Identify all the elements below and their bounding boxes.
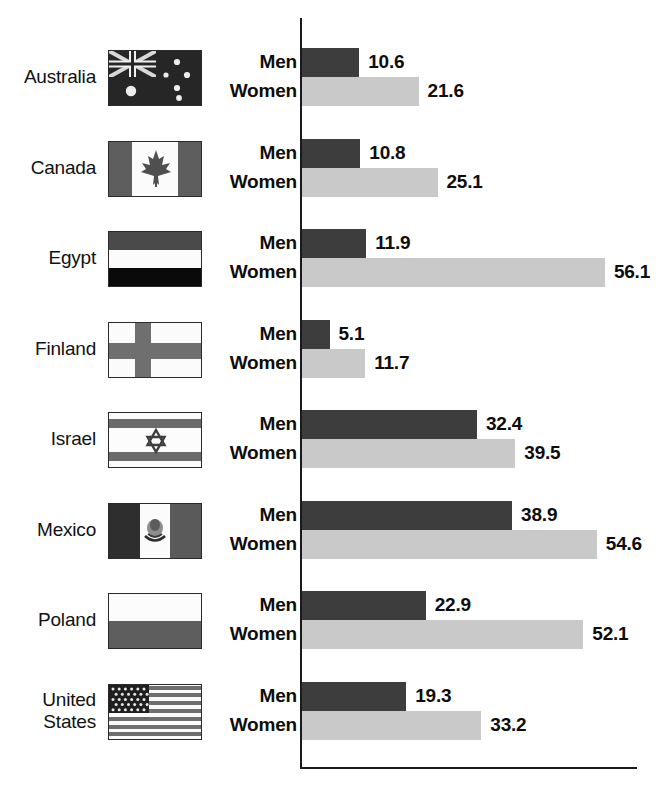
- series-row-women: Women52.1: [0, 620, 664, 649]
- bar-women: [302, 349, 365, 378]
- bar-women: [302, 168, 438, 197]
- series-row-women: Women56.1: [0, 258, 664, 287]
- bar-men: [302, 682, 406, 711]
- series-row-women: Women21.6: [0, 77, 664, 106]
- bar-value-women: 54.6: [606, 533, 642, 555]
- series-row-men: Men5.1: [0, 320, 664, 349]
- bar-women: [302, 530, 597, 559]
- bar-men: [302, 139, 360, 168]
- series-label-men: Men: [200, 594, 297, 616]
- series-label-men: Men: [200, 232, 297, 254]
- bar-men: [302, 229, 366, 258]
- series-label-men: Men: [200, 51, 297, 73]
- bar-women: [302, 711, 481, 740]
- series-label-women: Women: [200, 623, 297, 645]
- bar-women: [302, 258, 605, 287]
- series-row-men: Men11.9: [0, 229, 664, 258]
- country-group: Canada Men10.8Women25.1: [0, 129, 664, 217]
- series-row-women: Women54.6: [0, 530, 664, 559]
- bar-men: [302, 591, 426, 620]
- series-row-women: Women39.5: [0, 439, 664, 468]
- bar-men: [302, 320, 330, 349]
- series-row-women: Women33.2: [0, 711, 664, 740]
- series-label-women: Women: [200, 261, 297, 283]
- bar-value-men: 10.6: [368, 51, 404, 73]
- series-row-men: Men22.9: [0, 591, 664, 620]
- series-label-women: Women: [200, 533, 297, 555]
- series-label-men: Men: [200, 323, 297, 345]
- bar-women: [302, 439, 515, 468]
- country-group: Australia Men10.6Women21.6: [0, 38, 664, 126]
- bar-value-women: 52.1: [592, 623, 628, 645]
- bar-value-men: 38.9: [521, 504, 557, 526]
- series-row-women: Women11.7: [0, 349, 664, 378]
- series-row-men: Men10.6: [0, 48, 664, 77]
- country-group: Poland Men22.9Women52.1: [0, 581, 664, 669]
- country-group: UnitedStatesMen19.3Women33.2: [0, 672, 664, 760]
- country-group: Mexico Men38.9Women54.6: [0, 491, 664, 579]
- bar-men: [302, 48, 359, 77]
- bar-value-men: 19.3: [415, 685, 451, 707]
- bar-men: [302, 410, 477, 439]
- series-label-men: Men: [200, 413, 297, 435]
- series-label-men: Men: [200, 142, 297, 164]
- bar-value-women: 56.1: [614, 261, 650, 283]
- series-label-women: Women: [200, 80, 297, 102]
- bar-value-women: 21.6: [428, 80, 464, 102]
- bar-value-women: 25.1: [447, 171, 483, 193]
- series-row-men: Men38.9: [0, 501, 664, 530]
- bar-value-men: 10.8: [369, 142, 405, 164]
- series-label-men: Men: [200, 504, 297, 526]
- bar-value-men: 22.9: [435, 594, 471, 616]
- bar-value-men: 32.4: [486, 413, 522, 435]
- country-group: Egypt Men11.9Women56.1: [0, 219, 664, 307]
- bar-chart: Australia Men10.6Women21.6Canada Men10.8…: [0, 0, 664, 788]
- series-row-men: Men19.3: [0, 682, 664, 711]
- bar-value-women: 39.5: [524, 442, 560, 464]
- series-row-men: Men10.8: [0, 139, 664, 168]
- value-axis-line: [300, 767, 637, 769]
- series-row-women: Women25.1: [0, 168, 664, 197]
- bar-value-men: 5.1: [339, 323, 365, 345]
- bar-value-women: 33.2: [490, 714, 526, 736]
- series-label-women: Women: [200, 171, 297, 193]
- series-label-men: Men: [200, 685, 297, 707]
- series-label-women: Women: [200, 442, 297, 464]
- series-label-women: Women: [200, 352, 297, 374]
- bar-value-men: 11.9: [375, 232, 410, 254]
- bar-women: [302, 77, 419, 106]
- country-group: Finland Men5.1Women11.7: [0, 310, 664, 398]
- country-group: Israel Men32.4Women39.5: [0, 400, 664, 488]
- series-label-women: Women: [200, 714, 297, 736]
- series-row-men: Men32.4: [0, 410, 664, 439]
- bar-women: [302, 620, 583, 649]
- bar-value-women: 11.7: [374, 352, 409, 374]
- bar-men: [302, 501, 512, 530]
